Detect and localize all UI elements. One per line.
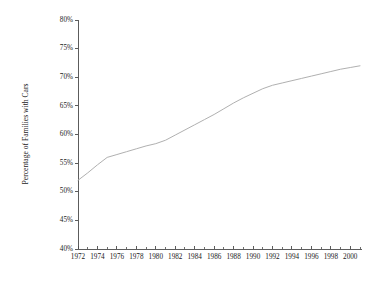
x-axis: 1972197419761978198019821984198619881990… — [71, 246, 362, 262]
x-tick-label: 1976 — [110, 253, 125, 261]
y-tick-label: 80% — [60, 16, 73, 24]
x-tick-label: 1994 — [285, 253, 300, 261]
y-tick-label: 50% — [60, 187, 73, 195]
x-tick-label: 1980 — [149, 253, 164, 261]
y-tick-label: 70% — [60, 73, 73, 81]
y-axis-title-text: Percentage of Families with Cars — [21, 84, 30, 185]
y-tick-label: 75% — [60, 44, 73, 52]
x-tick-label: 1998 — [324, 253, 339, 261]
x-tick-label: 1996 — [304, 253, 319, 261]
plot-area — [78, 66, 360, 181]
y-axis-tick-labels: 80%75%70%65%60%55%50%45%40% — [60, 16, 73, 253]
y-tick-label: 45% — [60, 216, 73, 224]
data-series-line — [78, 66, 360, 181]
line-chart: Percentage of Families with Cars 80%75%7… — [0, 0, 378, 282]
x-tick-label: 1972 — [71, 253, 86, 261]
y-tick-label: 60% — [60, 130, 73, 138]
y-axis-title: Percentage of Families with Cars — [21, 84, 30, 185]
x-tick-label: 1984 — [188, 253, 203, 261]
y-tick-label: 65% — [60, 102, 73, 110]
x-tick-label: 1982 — [168, 253, 183, 261]
y-tick-label: 55% — [60, 159, 73, 167]
x-tick-label: 1986 — [207, 253, 222, 261]
x-tick-label: 1974 — [90, 253, 105, 261]
x-tick-label: 2000 — [343, 253, 358, 261]
x-tick-label: 1992 — [265, 253, 280, 261]
x-axis-minor-ticks — [78, 246, 360, 250]
y-tick-label: 40% — [60, 245, 73, 253]
x-axis-tick-labels: 1972197419761978198019821984198619881990… — [71, 253, 358, 261]
x-tick-label: 1978 — [129, 253, 144, 261]
y-axis: 80%75%70%65%60%55%50%45%40% — [60, 16, 78, 253]
x-tick-label: 1988 — [226, 253, 241, 261]
x-tick-label: 1990 — [246, 253, 261, 261]
chart-container: Percentage of Families with Cars 80%75%7… — [0, 0, 378, 282]
